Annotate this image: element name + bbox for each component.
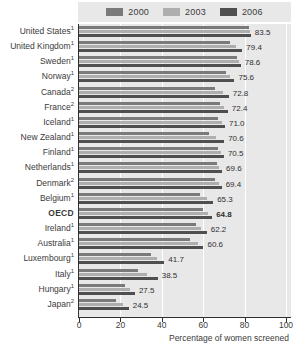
bar-2006[interactable] [78,125,225,128]
bar-group: 72.8 [78,87,291,102]
bar-2000[interactable] [78,299,116,302]
bar-2006[interactable] [78,186,222,189]
bar-value-label: 78.6 [245,59,261,67]
bar-2000[interactable] [78,223,196,226]
bar-2000[interactable] [78,208,203,211]
bar-2000[interactable] [78,238,190,241]
bar-2003[interactable] [78,136,216,139]
bar-2003[interactable] [78,273,147,276]
bar-2006[interactable] [78,246,203,249]
category-label-united-states: United States1 [20,27,74,36]
y-axis-line [78,24,79,318]
bar-2000[interactable] [78,41,230,44]
bar-2006[interactable] [78,261,164,264]
bar-2000[interactable] [78,132,209,135]
footnote-marker: 1 [71,237,74,243]
bar-2000[interactable] [78,26,249,29]
footnote-marker: 1 [71,253,74,259]
bar-value-label: 41.7 [168,256,184,264]
legend-item-2006[interactable]: 2006 [220,7,263,17]
bar-2006[interactable] [78,307,129,310]
bar-2006[interactable] [78,277,158,280]
category-label-japan: Japan2 [47,300,74,309]
bar-2003[interactable] [78,212,208,215]
legend-item-2000[interactable]: 2000 [106,7,149,17]
bar-value-label: 75.6 [238,74,254,82]
category-label-australia: Australia1 [38,239,74,248]
bar-group: 72.4 [78,102,291,117]
category-label-belgium: Belgium1 [40,194,74,203]
x-axis-tick-labels: 020406080100 [78,320,291,332]
bar-2000[interactable] [78,102,220,105]
bar-2006[interactable] [78,292,135,295]
bar-2000[interactable] [78,147,218,150]
bar-2006[interactable] [78,49,242,52]
bar-2003[interactable] [78,75,230,78]
legend-swatch-2000 [106,8,123,16]
bar-2000[interactable] [78,284,125,287]
bar-2006[interactable] [78,155,224,158]
bar-2000[interactable] [78,178,215,181]
x-axis-title: Percentage of women screened [0,333,289,343]
bar-2003[interactable] [78,60,239,63]
bar-2006[interactable] [78,34,251,37]
footnote-marker: 1 [71,71,74,77]
bar-value-label: 69.4 [226,181,242,189]
bar-2000[interactable] [78,193,200,196]
legend-label-2003: 2003 [185,7,206,17]
category-label-united-kingdom: United Kingdom1 [10,42,74,51]
footnote-marker: 1 [71,40,74,46]
bar-group: 64.8 [78,208,291,223]
bar-group: 75.6 [78,71,291,86]
bar-value-label: 70.5 [228,150,244,158]
bar-2006[interactable] [78,140,224,143]
bar-2006[interactable] [78,95,229,98]
bar-2003[interactable] [78,91,223,94]
x-tick-label-100: 100 [279,320,293,330]
category-label-norway: Norway1 [42,72,74,81]
bar-2006[interactable] [78,231,207,234]
bar-2000[interactable] [78,162,217,165]
bar-value-label: 65.3 [217,196,233,204]
category-label-denmark: Denmark2 [36,179,74,188]
bar-2003[interactable] [78,106,224,109]
bar-2006[interactable] [78,110,228,113]
bar-2000[interactable] [78,253,151,256]
bar-value-label: 69.6 [226,165,242,173]
bar-2000[interactable] [78,117,218,120]
bar-2003[interactable] [78,242,198,245]
bar-2000[interactable] [78,71,226,74]
category-label-canada: Canada2 [41,88,74,97]
bar-2003[interactable] [78,303,123,306]
bar-2003[interactable] [78,227,201,230]
bar-2006[interactable] [78,64,241,67]
bar-group: 60.6 [78,238,291,253]
bar-2003[interactable] [78,166,219,169]
footnote-marker: 1 [71,268,74,274]
bar-2003[interactable] [78,121,222,124]
bar-2003[interactable] [78,30,250,33]
category-label-new-zealand: New Zealand1 [21,133,74,142]
bar-2003[interactable] [78,288,130,291]
footnote-marker: 2 [71,298,74,304]
footnote-marker: 1 [71,283,74,289]
bar-2003[interactable] [78,197,207,200]
bar-2006[interactable] [78,79,234,82]
bar-2003[interactable] [78,257,157,260]
legend-item-2003[interactable]: 2003 [163,7,206,17]
bar-2000[interactable] [78,269,138,272]
bar-2006[interactable] [78,216,212,219]
bar-2003[interactable] [78,45,236,48]
bar-value-label: 72.8 [233,90,249,98]
category-label-oecd: OECD [48,209,74,218]
x-tick-label-60: 60 [198,320,207,330]
bar-group: 70.6 [78,132,291,147]
bar-2006[interactable] [78,170,222,173]
bar-group: 38.5 [78,269,291,284]
bar-2003[interactable] [78,182,219,185]
bar-2003[interactable] [78,151,221,154]
bar-2000[interactable] [78,87,215,90]
bar-2000[interactable] [78,56,237,59]
footnote-marker: 2 [71,177,74,183]
bar-2006[interactable] [78,201,213,204]
